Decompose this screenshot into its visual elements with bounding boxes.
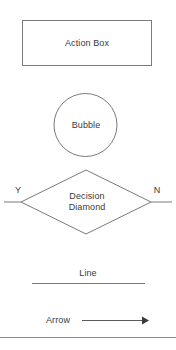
bubble-label: Bubble <box>72 120 101 131</box>
action-box-label: Action Box <box>65 38 109 49</box>
decision-diamond-label: Decision Diamond <box>69 191 106 213</box>
arrow-head-icon <box>142 317 149 325</box>
decision-no-branch-label: N <box>154 185 161 196</box>
arrow-label: Arrow <box>46 315 70 326</box>
decision-yes-branch-label: Y <box>15 185 21 196</box>
decision-diamond-label-line2: Diamond <box>69 202 106 213</box>
decision-diamond-label-line1: Decision <box>69 191 106 202</box>
diagram-vector-layer <box>0 0 176 350</box>
line-label: Line <box>79 268 96 279</box>
flowchart-legend-canvas: Action Box Bubble Decision Diamond Y N L… <box>0 0 176 350</box>
